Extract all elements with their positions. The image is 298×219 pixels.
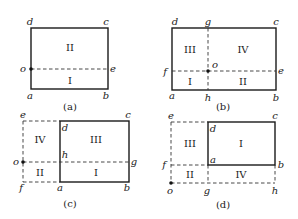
region-label: III — [184, 138, 196, 149]
label-a: a — [169, 90, 175, 101]
label-b: b — [124, 182, 130, 193]
panel-b: d g c f o e a h b III IV I II (b) — [162, 16, 284, 112]
label-e: e — [20, 109, 26, 120]
label-o: o — [13, 156, 19, 167]
panel-a-point-o — [29, 67, 33, 71]
region-label: I — [239, 138, 243, 149]
panel-b-caption: (b) — [216, 101, 230, 112]
label-e: e — [110, 63, 116, 74]
label-b: b — [273, 92, 279, 103]
label-b: b — [103, 90, 109, 101]
label-h: h — [272, 185, 278, 196]
panel-b-point-o — [206, 69, 210, 73]
label-c: c — [125, 109, 131, 120]
region-label: II — [36, 167, 44, 178]
label-g: g — [131, 156, 137, 167]
region-label: III — [90, 134, 102, 145]
region-label: III — [184, 44, 196, 55]
region-label: IV — [237, 44, 249, 55]
label-d: d — [172, 16, 178, 27]
label-c: c — [103, 16, 109, 27]
label-e: e — [168, 110, 174, 121]
figure-canvas: d c o e a b II I (a) d g c f o e a h b I… — [0, 0, 298, 219]
panel-d: e d c f a b o g h III I II IV (d) — [161, 110, 284, 210]
panel-a-caption: (a) — [63, 101, 77, 112]
label-d: d — [210, 123, 216, 134]
label-g: g — [205, 16, 211, 27]
label-h: h — [62, 149, 68, 160]
region-label: II — [239, 76, 247, 87]
region-label: I — [94, 167, 98, 178]
label-g: g — [204, 185, 210, 196]
region-label: IV — [34, 134, 46, 145]
panel-d-caption: (d) — [216, 199, 230, 210]
label-c: c — [272, 110, 278, 121]
label-e: e — [278, 65, 284, 76]
label-d: d — [27, 16, 33, 27]
label-f: f — [161, 159, 168, 170]
label-d: d — [62, 122, 68, 133]
panel-c-caption: (c) — [63, 198, 77, 209]
label-o: o — [167, 185, 173, 196]
region-label: I — [68, 75, 72, 86]
label-o: o — [20, 63, 26, 74]
region-label: IV — [235, 169, 247, 180]
label-a: a — [57, 182, 63, 193]
label-a: a — [210, 154, 216, 165]
label-f: f — [18, 182, 25, 193]
panel-c-point-o — [21, 160, 25, 164]
panel-c: e d c o h g f a b IV III II I (c) — [13, 109, 137, 209]
label-o: o — [212, 59, 218, 70]
label-h: h — [205, 92, 211, 103]
label-b: b — [278, 159, 284, 170]
label-a: a — [27, 90, 33, 101]
panel-a: d c o e a b II I (a) — [20, 16, 116, 112]
label-c: c — [273, 16, 279, 27]
label-f: f — [162, 66, 169, 77]
region-label: II — [66, 42, 74, 53]
region-label: II — [186, 169, 194, 180]
region-label: I — [188, 76, 192, 87]
